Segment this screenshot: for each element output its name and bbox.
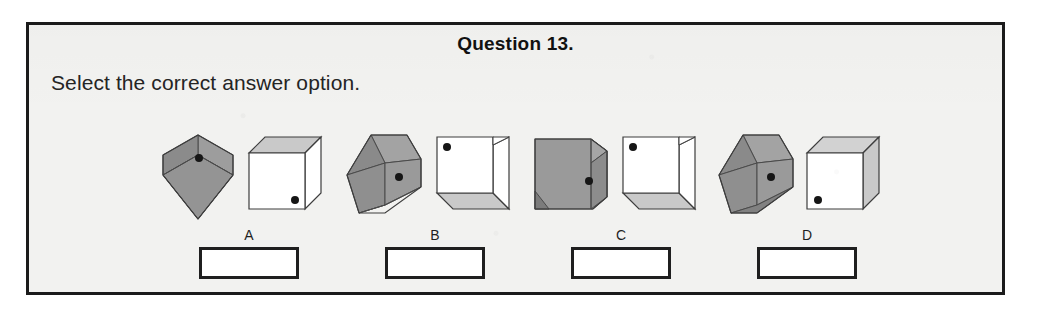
option-b-figures [337,129,533,225]
gray-cube-dot [767,173,775,181]
gray-cube-corner-view-tilted-icon [341,129,427,225]
option-c-letter: C [523,227,719,243]
white-cube-dot [443,143,451,151]
option-d-letter: D [709,227,905,243]
white-cube-dot [291,196,299,204]
option-c: C [523,129,719,289]
white-cube-top-right-shaded-icon [801,129,887,225]
gray-cube-corner-view-icon [155,129,241,225]
gray-cube-front-view-icon [527,129,613,225]
option-b: B [337,129,533,289]
option-d-figures [709,129,905,225]
scanned-page: Question 13. Select the correct answer o… [0,0,1057,317]
white-cube-dot [629,143,637,151]
option-a-letter: A [151,227,347,243]
instruction-text: Select the correct answer option. [51,71,360,95]
gray-cube-dot [395,173,403,181]
answer-box-b[interactable] [385,247,485,279]
answer-options-row: A [29,129,1008,289]
page-title: Question 13. [29,33,1002,55]
option-a: A [151,129,347,289]
option-d: D [709,129,905,289]
answer-box-a[interactable] [199,247,299,279]
white-cube-bottom-shaded-icon [429,129,515,225]
white-cube-dot [814,196,822,204]
gray-cube-corner-view-tilted-icon [713,129,799,225]
gray-cube-dot [585,177,593,185]
gray-cube-dot [195,154,203,162]
answer-box-d[interactable] [757,247,857,279]
answer-box-c[interactable] [571,247,671,279]
white-cube-top-shaded-icon [243,129,329,225]
option-c-figures [523,129,719,225]
white-cube-bottom-shaded-icon [615,129,701,225]
option-a-figures [151,129,347,225]
option-b-letter: B [337,227,533,243]
question-panel: Question 13. Select the correct answer o… [26,22,1005,295]
